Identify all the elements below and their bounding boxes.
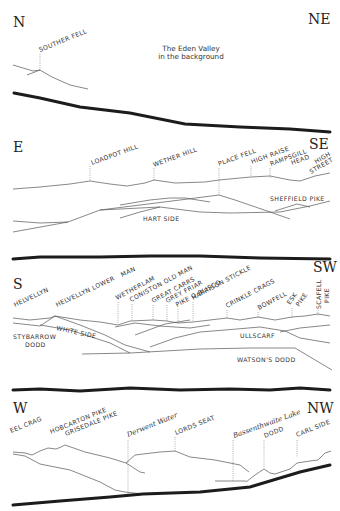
ridge-line xyxy=(126,463,145,473)
ridge-line xyxy=(275,204,310,211)
label-watsons-dodd: WATSON'S DODD xyxy=(237,356,296,363)
peak-label-lords-seat: LORDS SEAT xyxy=(174,414,216,436)
peak-label-souther-fell: SOUTHER FELL xyxy=(38,27,88,53)
foreground-base-line xyxy=(13,388,330,391)
note-line-2: in the background xyxy=(158,52,223,61)
ridge-line xyxy=(115,323,210,328)
peak-label-carl-side: CARL SIDE xyxy=(295,418,331,438)
label-stybarrow: STYBARROW xyxy=(13,333,56,340)
ridge-line xyxy=(13,316,55,326)
direction-s: S xyxy=(13,276,23,292)
peak-label-scafell: SCAFELL xyxy=(315,279,322,309)
fell-panorama-diagram: N NE The Eden Valley in the background S… xyxy=(0,0,340,511)
peak-label-man: MAN xyxy=(119,265,136,278)
label-sheffield-pike: SHEFFIELD PIKE xyxy=(270,195,325,202)
foreground-base-line xyxy=(13,465,330,505)
direction-sw: SW xyxy=(313,259,338,275)
ridge-line xyxy=(120,198,210,205)
label-derwent-water: Derwent Water xyxy=(125,411,179,439)
panel-south: S SW HELVELLYN HELVELLYN LOWER MAN WETHE… xyxy=(12,259,337,370)
ridge-line xyxy=(13,454,143,494)
peak-label-bowfell: BOWFELL xyxy=(256,289,288,310)
panel-west: W NW EEL CRAG HOBCARTON PIKE GRISEDALE P… xyxy=(9,400,334,505)
direction-nw: NW xyxy=(307,400,334,416)
skyline-ridge xyxy=(13,314,330,325)
ridge-line xyxy=(13,65,88,89)
label-white-side: WHITE SIDE xyxy=(56,324,97,339)
ridge-line xyxy=(13,222,68,232)
direction-e: E xyxy=(13,139,23,155)
peak-label-eel-crag: EEL CRAG xyxy=(9,415,43,434)
ridge-line xyxy=(280,325,330,332)
peak-label-loadpot-hill: LOADPOT HILL xyxy=(90,142,139,166)
panel-east: E SE LOADPOT HILL WETHER HILL PLACE FELL… xyxy=(13,136,334,232)
skyline-ridge xyxy=(13,445,249,472)
peak-label-wether-hill: WETHER HILL xyxy=(152,145,198,168)
foreground-base-line xyxy=(14,93,330,132)
direction-ne: NE xyxy=(308,11,330,27)
label-ullscarf: ULLSCARF xyxy=(240,332,275,339)
peak-label-helvellyn-lower: HELVELLYN LOWER xyxy=(54,274,116,308)
direction-n: N xyxy=(13,14,25,30)
skyline-ridge xyxy=(13,173,330,189)
direction-se: SE xyxy=(309,136,329,152)
foreground-base-line xyxy=(13,256,330,259)
peak-label-scafell-pike: PIKE xyxy=(323,288,330,303)
label-dodd: DODD xyxy=(25,341,46,348)
label-hart-side: HART SIDE xyxy=(143,215,180,222)
ridge-line xyxy=(55,316,150,352)
direction-w: W xyxy=(13,400,28,416)
panel-north: N NE The Eden Valley in the background S… xyxy=(13,11,330,132)
